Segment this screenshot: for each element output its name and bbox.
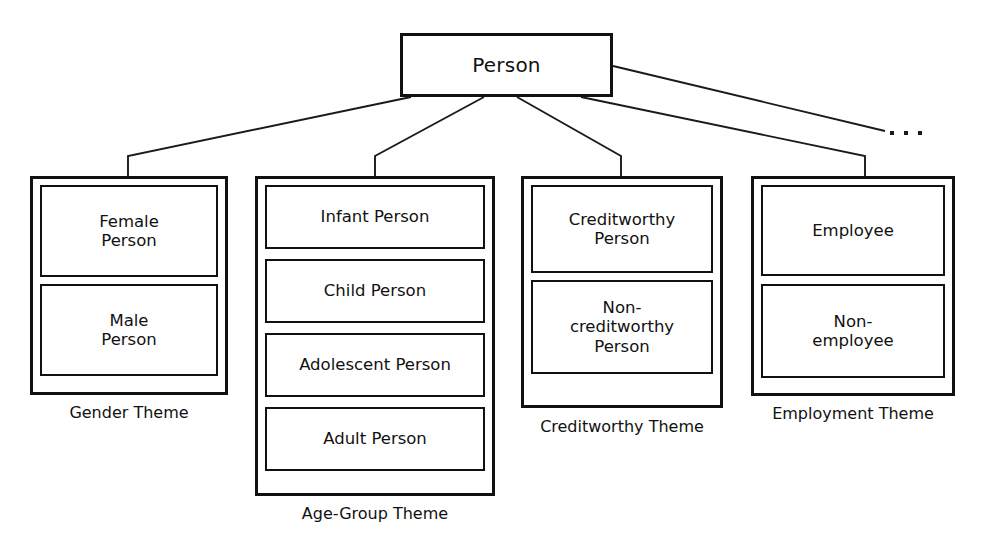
root-node-person[interactable]: Person <box>400 33 613 97</box>
connector-person-to-employment <box>581 97 865 176</box>
connector-person-to-gender <box>128 97 411 176</box>
concept-label: Female Person <box>99 212 159 251</box>
connector-person-to-ellipsis <box>613 66 885 131</box>
connector-person-to-creditworthy <box>517 97 621 176</box>
concept-box-adolescent-person[interactable]: Adolescent Person <box>265 333 485 397</box>
concept-box-creditworthy-person[interactable]: Creditworthy Person <box>531 185 713 273</box>
concept-box-non-creditworthy-person[interactable]: Non- creditworthy Person <box>531 280 713 374</box>
connector-person-to-age-group <box>375 97 484 176</box>
concept-box-male-person[interactable]: Male Person <box>40 284 218 376</box>
ellipsis-dot <box>890 131 894 135</box>
theme-label-creditworthy: Creditworthy Theme <box>511 417 733 436</box>
theme-concepts-creditworthy: Creditworthy Person Non- creditworthy Pe… <box>521 176 723 390</box>
concept-label: Infant Person <box>321 207 430 226</box>
concept-label: Non- creditworthy Person <box>570 298 674 356</box>
theme-concepts-employment: Employee Non- employee <box>751 176 955 396</box>
concept-label: Employee <box>812 221 894 240</box>
concept-box-employee[interactable]: Employee <box>761 185 945 276</box>
concept-label: Male Person <box>101 311 156 350</box>
theme-group-employment[interactable]: Employee Non- employee <box>751 176 955 396</box>
theme-hierarchy-diagram: Person Female Person Male Person Gender … <box>0 0 990 546</box>
concept-box-female-person[interactable]: Female Person <box>40 185 218 277</box>
concept-label: Child Person <box>324 281 426 300</box>
theme-group-gender[interactable]: Female Person Male Person <box>30 176 228 395</box>
concept-label: Adolescent Person <box>299 355 451 374</box>
root-node-label: Person <box>472 53 540 77</box>
concept-box-infant-person[interactable]: Infant Person <box>265 185 485 249</box>
concept-label: Adult Person <box>323 429 427 448</box>
theme-label-age-group: Age-Group Theme <box>255 504 495 523</box>
concept-box-non-employee[interactable]: Non- employee <box>761 284 945 378</box>
theme-group-age-group[interactable]: Infant Person Child Person Adolescent Pe… <box>255 176 495 496</box>
concept-box-adult-person[interactable]: Adult Person <box>265 407 485 471</box>
ellipsis-dot <box>918 131 922 135</box>
concept-box-child-person[interactable]: Child Person <box>265 259 485 323</box>
concept-label: Creditworthy Person <box>569 210 676 249</box>
theme-label-employment: Employment Theme <box>746 404 960 423</box>
ellipsis-more-themes <box>890 131 922 135</box>
ellipsis-dot <box>904 131 908 135</box>
theme-concepts-age-group: Infant Person Child Person Adolescent Pe… <box>255 176 495 496</box>
theme-label-gender: Gender Theme <box>30 403 228 422</box>
concept-label: Non- employee <box>812 312 893 351</box>
theme-group-creditworthy[interactable]: Creditworthy Person Non- creditworthy Pe… <box>521 176 723 408</box>
theme-concepts-gender: Female Person Male Person <box>30 176 228 395</box>
